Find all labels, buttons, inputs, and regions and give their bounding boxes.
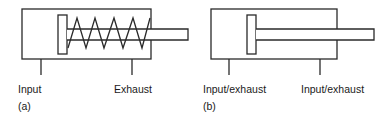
panel-a-caption: (a) bbox=[18, 101, 31, 112]
exhaust-port-label: Exhaust bbox=[114, 84, 152, 95]
cylinder-diagram: Input Exhaust (a) Input/exhaust Input/ex… bbox=[0, 0, 391, 123]
piston-a bbox=[58, 15, 67, 54]
panel-b-caption: (b) bbox=[203, 101, 216, 112]
left-port-label-b: Input/exhaust bbox=[203, 84, 266, 95]
double-acting-cylinder bbox=[211, 9, 374, 75]
piston-b bbox=[247, 15, 256, 54]
diagram-graphics bbox=[0, 0, 391, 123]
input-port-label: Input bbox=[18, 84, 41, 95]
right-port-label-b: Input/exhaust bbox=[301, 84, 364, 95]
piston-rod-b bbox=[256, 29, 374, 40]
single-acting-cylinder bbox=[22, 9, 188, 75]
